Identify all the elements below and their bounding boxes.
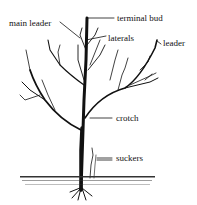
label-leader: leader [163, 38, 185, 48]
label-suckers: suckers [116, 153, 143, 163]
tree-drawing [0, 0, 197, 205]
left-limb [30, 70, 81, 130]
ground [20, 176, 155, 185]
label-crotch: crotch [116, 113, 139, 123]
label-laterals: laterals [108, 33, 134, 43]
label-main-leader: main leader [9, 18, 51, 28]
label-terminal-bud: terminal bud [117, 13, 163, 23]
suckers-shoot [90, 148, 93, 178]
